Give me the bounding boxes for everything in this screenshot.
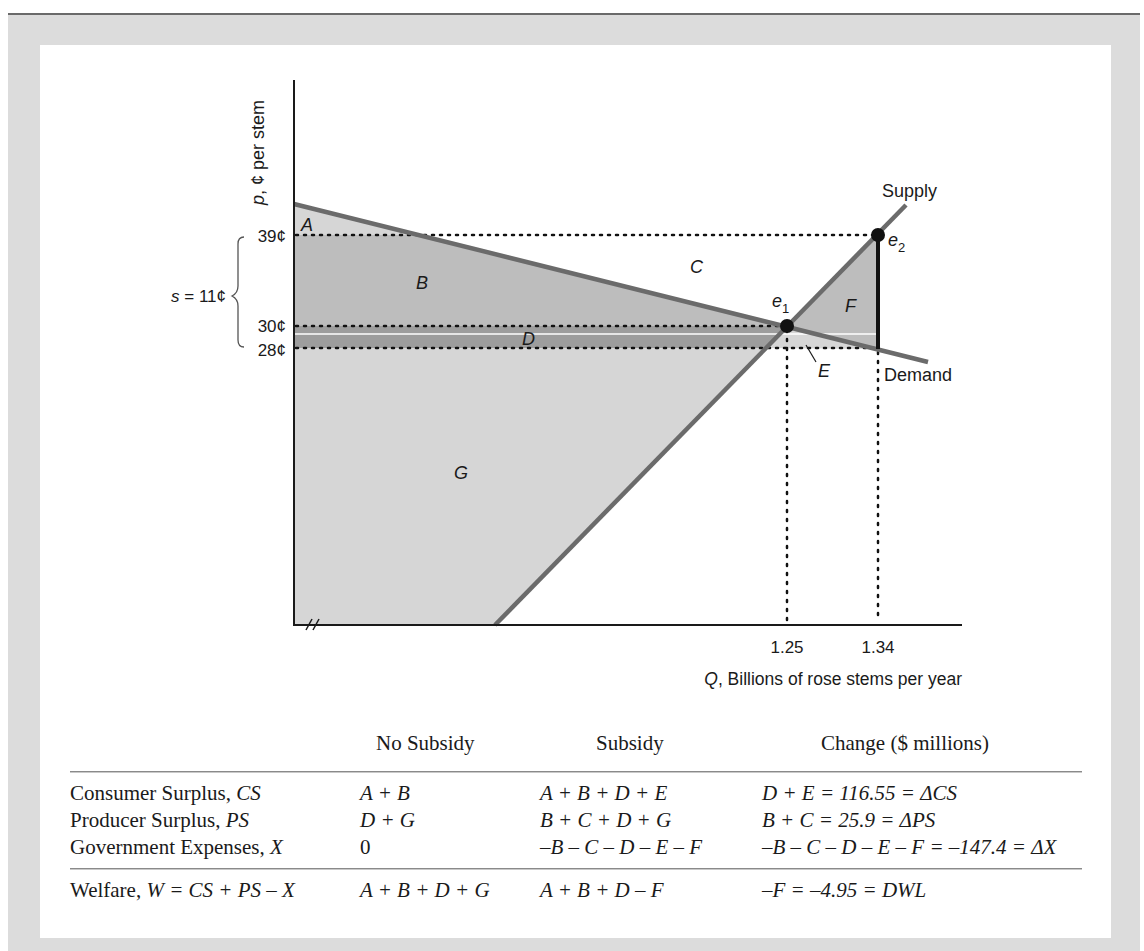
row-label: Welfare, W = CS + PS – X (70, 878, 295, 903)
region-d (294, 326, 787, 348)
subsidy-label: s = 11¢ (171, 287, 226, 306)
cell-subsidy: –B – C – D – E – F (540, 835, 702, 860)
header-change: Change ($ millions) (821, 731, 989, 756)
region-c-label: C (690, 257, 704, 277)
region-f-label: F (845, 296, 857, 316)
header-no-subsidy: No Subsidy (376, 731, 475, 756)
cell-change: –B – C – D – E – F = –147.4 = ΔX (762, 835, 1056, 860)
tick-28: 28¢ (258, 341, 286, 360)
e2-point (871, 228, 885, 242)
region-e-label: E (818, 361, 831, 381)
region-b-label: B (416, 273, 428, 293)
welfare-table: No Subsidy Subsidy Change ($ millions) C… (70, 725, 1082, 905)
tick-30: 30¢ (258, 317, 286, 336)
cell-no-subsidy: A + B (360, 781, 410, 806)
e2-label: e2 (888, 230, 905, 255)
x-axis-label: Q, Billions of rose stems per year (704, 669, 962, 689)
tick-39: 39¢ (258, 227, 286, 246)
cell-no-subsidy: A + B + D + G (360, 878, 490, 903)
e1-label: e1 (772, 291, 789, 316)
table-row: Government Expenses, X 0 –B – C – D – E … (70, 835, 1082, 862)
cell-no-subsidy: 0 (360, 835, 371, 860)
region-a-label: A (300, 215, 313, 235)
header-subsidy: Subsidy (596, 731, 664, 756)
table-row: Consumer Surplus, CS A + B A + B + D + E… (70, 781, 1082, 808)
e1-point (780, 319, 794, 333)
welfare-chart: p, ¢ per stem 39¢ 30¢ 28¢ s = 11¢ 1.25 1… (0, 0, 1144, 720)
cell-subsidy: A + B + D – F (540, 878, 664, 903)
cell-change: –F = –4.95 = DWL (762, 878, 926, 903)
table-row: Producer Surplus, PS D + G B + C + D + G… (70, 808, 1082, 835)
row-label: Government Expenses, X (70, 835, 283, 860)
table-header-row: No Subsidy Subsidy Change ($ millions) (70, 725, 1082, 771)
tick-q125: 1.25 (770, 638, 803, 657)
region-g-label: G (454, 463, 468, 483)
cell-subsidy: B + C + D + G (540, 808, 671, 833)
row-label: Consumer Surplus, CS (70, 781, 261, 806)
row-label: Producer Surplus, PS (70, 808, 249, 833)
table-row-welfare: Welfare, W = CS + PS – X A + B + D + G A… (70, 878, 1082, 905)
cell-no-subsidy: D + G (360, 808, 415, 833)
y-axis-label: p, ¢ per stem (248, 100, 268, 206)
tick-q134: 1.34 (861, 638, 894, 657)
cell-change: D + E = 116.55 = ΔCS (762, 781, 957, 806)
demand-label: Demand (884, 365, 952, 385)
brace-icon (232, 237, 244, 347)
cell-change: B + C = 25.9 = ΔPS (762, 808, 935, 833)
cell-subsidy: A + B + D + E (540, 781, 667, 806)
supply-label: Supply (882, 181, 937, 201)
region-b (294, 235, 787, 326)
region-g (294, 348, 766, 625)
region-d-label: D (522, 329, 535, 349)
